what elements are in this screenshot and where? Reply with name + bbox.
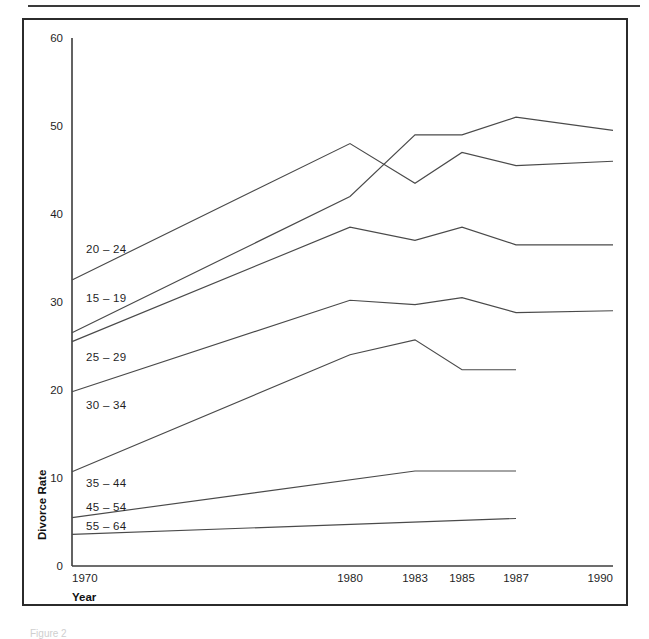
chart-series-group [72, 117, 613, 534]
series-label-2024: 20 – 24 [86, 243, 127, 255]
series-line-5564 [72, 518, 516, 534]
series-line-3034 [72, 298, 613, 392]
y-axis-tick-label: 40 [50, 208, 63, 220]
y-axis-tick-label: 60 [50, 32, 63, 44]
x-axis-tick-label: 1987 [503, 572, 529, 584]
y-axis-tick-labels: 0102030405060 [50, 32, 63, 572]
figure-caption: Figure 2 [30, 628, 67, 639]
series-label-3034: 30 – 34 [86, 399, 127, 411]
y-axis-tick-label: 50 [50, 120, 63, 132]
series-line-1519 [72, 117, 613, 333]
series-line-4554 [72, 471, 516, 518]
x-axis-tick-labels: 197019801983198519871990 [72, 572, 613, 584]
series-line-3544 [72, 340, 516, 472]
x-axis-tick-label: 1980 [337, 572, 363, 584]
y-axis-tick-label: 30 [50, 296, 63, 308]
x-axis-tick-label: 1970 [72, 572, 98, 584]
series-label-2529: 25 – 29 [86, 351, 126, 363]
series-label-5564: 55 – 64 [86, 520, 127, 532]
x-axis-title: Year [72, 591, 97, 603]
series-inline-labels: 20 – 2415 – 1925 – 2930 – 3435 – 4445 – … [86, 243, 127, 532]
series-label-3544: 35 – 44 [86, 477, 127, 489]
series-line-2024 [72, 144, 613, 280]
chart-svg: 0102030405060 197019801983198519871990 2… [0, 0, 649, 639]
line-chart: 0102030405060 197019801983198519871990 2… [0, 0, 649, 639]
x-axis-tick-label: 1990 [587, 572, 613, 584]
x-axis-tick-label: 1985 [449, 572, 475, 584]
y-axis-title: Divorce Rate [36, 470, 48, 540]
y-axis-tick-label: 20 [50, 384, 63, 396]
series-label-1519: 15 – 19 [86, 292, 126, 304]
x-axis-tick-label: 1983 [402, 572, 428, 584]
y-axis-tick-label: 10 [50, 472, 63, 484]
series-label-4554: 45 – 54 [86, 501, 127, 513]
series-line-2529 [72, 227, 613, 341]
y-axis-tick-label: 0 [57, 560, 63, 572]
